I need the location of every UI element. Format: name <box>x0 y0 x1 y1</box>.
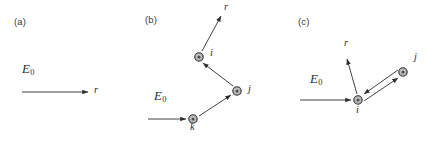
panel-b-node-i <box>195 53 203 61</box>
panel-c-nodes <box>354 68 407 104</box>
panel-b-arrow-i-to-r <box>202 16 221 51</box>
panel-c-node-j <box>399 68 407 76</box>
panel-c-arrows <box>300 59 398 101</box>
panel-b-arrow-j-to-i <box>203 63 233 86</box>
panel-b-node-j <box>233 87 241 95</box>
diagram-vector-overlay <box>0 0 440 142</box>
panel-b-nodes <box>189 53 241 123</box>
panel-c-arrow-i-to-r <box>347 59 357 94</box>
panel-b-arrow-k-to-j <box>199 95 231 116</box>
panel-c-arrow-j-to-i <box>364 70 398 94</box>
scattering-diagram-figure: (a) E0 r (b) E0 k j i r (c) E0 i j r <box>0 0 440 142</box>
panel-b-node-k <box>189 115 197 123</box>
panel-c-node-i <box>354 96 362 104</box>
panel-b-arrows <box>148 16 233 119</box>
